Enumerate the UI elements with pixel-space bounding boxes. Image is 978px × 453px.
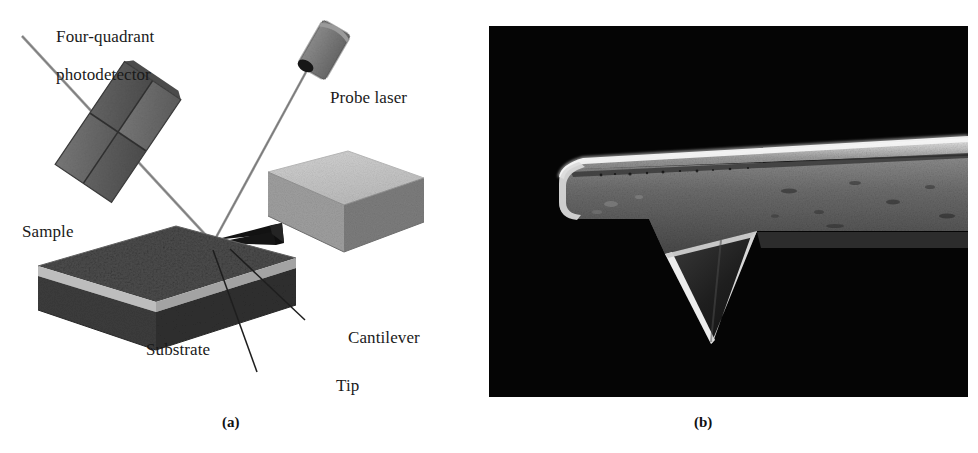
sample-substrate-slab [38, 226, 296, 350]
label-substrate: Substrate [146, 340, 210, 359]
cantilever-holder-block[interactable] [268, 151, 424, 252]
label-cantilever: Cantilever [348, 328, 420, 347]
probe-laser-module[interactable] [295, 19, 351, 83]
label-tip: Tip [336, 376, 359, 395]
caption-panel-b: (b) [694, 414, 712, 431]
panel-a-schematic: Four-quadrant photodetector Probe laser … [0, 0, 470, 453]
label-photodetector-line1: Four-quadrant [56, 27, 154, 46]
label-four-quadrant-photodetector: Four-quadrant photodetector [30, 8, 154, 103]
caption-panel-a: (a) [222, 414, 240, 431]
sem-cantilever-image [489, 26, 968, 397]
figure-container: Four-quadrant photodetector Probe laser … [0, 0, 978, 453]
label-probe-laser: Probe laser [330, 88, 407, 107]
label-sample: Sample [22, 222, 74, 241]
beam-lower-shadow [757, 232, 968, 248]
label-photodetector-line2: photodetector [56, 65, 151, 84]
panel-b-sem-micrograph [489, 26, 968, 397]
